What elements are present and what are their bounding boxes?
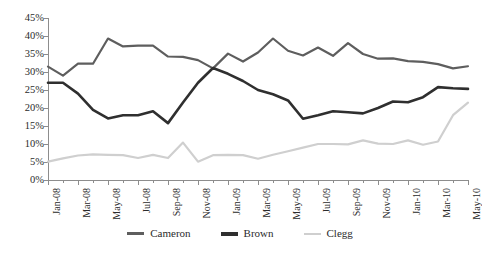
legend-item-brown[interactable]: Brown [221, 228, 274, 239]
legend-swatch-icon [221, 232, 238, 236]
legend-swatch-icon [127, 232, 144, 235]
legend-label: Cameron [150, 228, 190, 239]
legend-item-clegg[interactable]: Clegg [304, 228, 353, 239]
legend-label: Brown [244, 228, 274, 239]
legend-label: Clegg [327, 228, 353, 239]
series-line-clegg [48, 103, 468, 162]
chart-legend: CameronBrownClegg [0, 228, 480, 239]
series-line-brown [48, 68, 468, 123]
legend-swatch-icon [304, 233, 321, 235]
legend-item-cameron[interactable]: Cameron [127, 228, 190, 239]
series-line-cameron [48, 39, 468, 76]
